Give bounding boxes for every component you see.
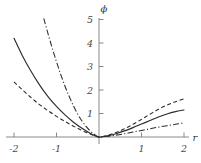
plot-container: -2 -1 1 2 1 2 3 4 5 ϕ r — [0, 0, 201, 163]
x-tick-label--1: -1 — [52, 143, 61, 154]
x-tick-label-2: 2 — [180, 143, 187, 154]
y-axis-label: ϕ — [101, 3, 108, 14]
phi-vs-r-chart: -2 -1 1 2 1 2 3 4 5 ϕ r — [0, 0, 201, 163]
y-tick-label-3: 3 — [87, 61, 93, 72]
y-tick-label-2: 2 — [86, 85, 93, 96]
y-tick-marks — [99, 20, 104, 114]
x-tick-label--2: -2 — [9, 143, 18, 154]
y-tick-label-1: 1 — [87, 108, 93, 119]
x-tick-label-1: 1 — [138, 143, 144, 154]
y-tick-label-5: 5 — [87, 14, 93, 25]
curve-dash-dot — [44, 18, 184, 137]
y-tick-label-4: 4 — [86, 38, 93, 49]
x-axis-label: r — [193, 132, 199, 143]
